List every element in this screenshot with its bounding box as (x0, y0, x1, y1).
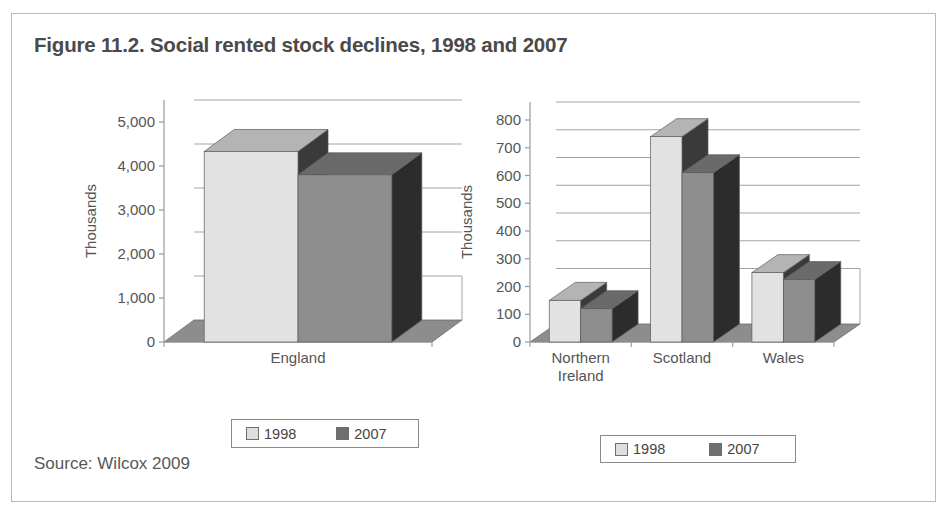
y-axis-tick-label: 1,000 (117, 289, 155, 306)
y-axis-tick-label: 2,000 (117, 245, 155, 262)
y-axis-title: Thousands (458, 185, 475, 259)
legend-england: 1998 2007 (231, 419, 419, 448)
y-axis-tick-label: 400 (496, 222, 521, 239)
legend-label-1998: 1998 (264, 426, 296, 442)
figure-title: Figure 11.2. Social rented stock decline… (34, 33, 567, 57)
y-axis-tick-label: 4,000 (117, 157, 155, 174)
bar-scotland-2007 (682, 155, 739, 342)
legend-entry-1998: 1998 (615, 441, 665, 457)
source-line: Source: Wilcox 2009 (34, 454, 190, 474)
legend-label-2007: 2007 (727, 441, 759, 457)
y-axis-tick-label: 200 (496, 278, 521, 295)
legend-entry-1998: 1998 (246, 426, 296, 442)
legend-entry-2007: 2007 (336, 426, 386, 442)
chart-nations: 0100200300400500600700800ThousandsNorthe… (452, 74, 872, 404)
bar-england-2007 (298, 153, 422, 342)
y-axis-tick-label: 500 (496, 194, 521, 211)
y-axis-tick-label: 700 (496, 139, 521, 156)
y-axis-title: Thousands (82, 184, 99, 258)
chart-nations-plot: 0100200300400500600700800ThousandsNorthe… (452, 74, 872, 404)
x-axis-category-label: Northern (551, 349, 609, 366)
y-axis-tick-label: 5,000 (117, 113, 155, 130)
y-axis-tick-label: 300 (496, 250, 521, 267)
legend-entry-2007: 2007 (709, 441, 759, 457)
figure-container: Figure 11.2. Social rented stock decline… (11, 13, 936, 502)
legend-swatch-2007-icon (709, 443, 722, 456)
legend-nations: 1998 2007 (600, 435, 796, 463)
legend-swatch-2007-icon (336, 427, 349, 440)
y-axis-tick-label: 3,000 (117, 201, 155, 218)
chart-england-plot: 01,0002,0003,0004,0005,000ThousandsEngla… (72, 74, 472, 404)
x-axis-category-label: Scotland (653, 349, 711, 366)
y-axis-tick-label: 0 (147, 333, 155, 350)
y-axis-tick-label: 600 (496, 167, 521, 184)
legend-swatch-1998-icon (615, 443, 628, 456)
y-axis-tick-label: 0 (513, 333, 521, 350)
x-axis-category-label: Wales (763, 349, 804, 366)
y-axis-tick-label: 800 (496, 111, 521, 128)
x-axis-category-label: England (270, 349, 325, 366)
legend-label-1998: 1998 (633, 441, 665, 457)
x-axis-category-label: Ireland (558, 367, 604, 384)
legend-swatch-1998-icon (246, 427, 259, 440)
bar-wales-2007 (783, 262, 840, 342)
chart-england: 01,0002,0003,0004,0005,000ThousandsEngla… (72, 74, 472, 404)
legend-label-2007: 2007 (354, 426, 386, 442)
y-axis-tick-label: 100 (496, 305, 521, 322)
